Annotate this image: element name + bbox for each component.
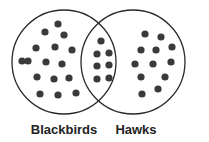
hawk-dot xyxy=(131,60,138,67)
blackbird-dot xyxy=(54,91,61,98)
hawk-dot xyxy=(141,30,148,37)
blackbird-dot xyxy=(33,73,40,80)
blackbird-dot xyxy=(36,90,43,97)
hawks-only-dots xyxy=(131,30,175,97)
intersection-dot xyxy=(93,75,100,82)
venn-diagram: Blackbirds Hawks xyxy=(0,0,209,142)
intersection-dot xyxy=(105,61,112,68)
blackbird-dot xyxy=(50,75,57,82)
blackbird-dot xyxy=(54,20,61,27)
blackbird-dot xyxy=(18,57,25,64)
hawk-dot xyxy=(168,43,175,50)
intersection-dot xyxy=(93,50,100,57)
intersection-dot xyxy=(105,49,112,56)
hawk-dot xyxy=(157,33,164,40)
blackbird-dot xyxy=(42,58,49,65)
intersection-dots xyxy=(93,37,112,82)
hawk-dot xyxy=(161,73,168,80)
hawk-dot xyxy=(137,73,144,80)
blackbird-dot xyxy=(51,43,58,50)
hawk-dot xyxy=(149,60,156,67)
blackbird-dot xyxy=(65,74,72,81)
blackbird-dot xyxy=(58,60,65,67)
hawk-dot xyxy=(154,85,161,92)
hawk-dot xyxy=(152,46,159,53)
hawk-dot xyxy=(137,46,144,53)
blackbird-dot xyxy=(72,89,79,96)
intersection-dot xyxy=(105,74,112,81)
hawk-dot xyxy=(167,58,174,65)
hawk-dot xyxy=(138,90,145,97)
blackbirds-label: Blackbirds xyxy=(31,122,97,137)
blackbird-dot xyxy=(32,44,39,51)
intersection-dot xyxy=(97,37,104,44)
hawks-label: Hawks xyxy=(115,122,156,137)
blackbirds-only-dots xyxy=(18,20,79,98)
blackbird-dot xyxy=(41,28,48,35)
blackbird-dot xyxy=(60,31,67,38)
intersection-dot xyxy=(93,62,100,69)
blackbird-dot xyxy=(68,46,75,53)
